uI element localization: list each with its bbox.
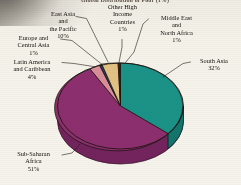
label-middle-east-line3: North Africa: [160, 29, 192, 36]
label-subsaharan-line2: Africa: [25, 157, 41, 164]
leader-line-latin-america: [62, 63, 96, 67]
label-other-high-line2: Income: [113, 10, 132, 17]
label-south-asia-line1: South Asia: [200, 57, 228, 64]
label-east-asia-line1: East Asia: [51, 10, 75, 17]
leader-line-other-high-income: [119, 40, 122, 63]
label-other-high-percent: 1%: [99, 25, 146, 32]
label-latin-line2: and Caribbean: [13, 65, 50, 72]
leader-line-europe: [61, 39, 102, 64]
label-south-asia-percent: 32%: [192, 64, 236, 71]
label-south-asia: South Asia 32%: [192, 57, 236, 72]
label-europe-line2: Central Asia: [18, 41, 50, 48]
label-other-high-line1: Other High: [108, 3, 137, 10]
label-europe-line1: Europe and: [19, 34, 48, 41]
label-europe-central-asia: Europe and Central Asia 1%: [7, 34, 60, 56]
label-middle-east-line2: and: [172, 21, 181, 28]
label-subsaharan-percent: 51%: [6, 165, 61, 172]
label-latin-america-caribbean: Latin America and Caribbean 4%: [3, 58, 61, 80]
label-latin-line1: Latin America: [14, 58, 51, 65]
label-middle-east-line1: Middle East: [161, 14, 192, 21]
label-sub-saharan-africa: Sub-Saharan Africa 51%: [6, 150, 61, 172]
label-subsaharan-line1: Sub-Saharan: [17, 150, 50, 157]
label-latin-percent: 4%: [3, 73, 61, 80]
label-other-high-line3: Countries: [110, 18, 135, 25]
label-middle-east-north-africa: Middle East and North Africa 1%: [150, 14, 203, 43]
label-europe-percent: 1%: [7, 49, 60, 56]
label-other-high-income: Other High Income Countries 1%: [99, 3, 146, 32]
leader-line-south-asia: [163, 62, 191, 77]
label-east-asia-line3: the Pacific: [49, 25, 76, 32]
figure-canvas: Global Distribution of Poor (1%): [0, 0, 241, 185]
label-middle-east-percent: 1%: [150, 36, 203, 43]
label-east-asia-line2: and: [58, 17, 67, 24]
